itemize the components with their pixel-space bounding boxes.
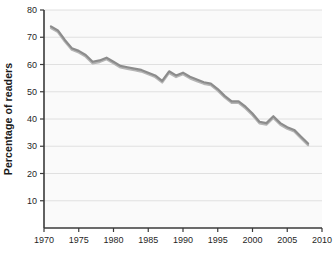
y-axis-title: Percentage of readers (2, 63, 14, 175)
line-chart: 1020304050607080 19701975198019851990199… (0, 0, 333, 258)
y-axis-tick-label: 40 (27, 114, 37, 124)
x-axis-tick-label: 2010 (312, 235, 332, 245)
x-axis-tick-label: 1995 (208, 235, 228, 245)
y-axis-tick-label: 50 (27, 87, 37, 97)
y-axis-tick-label: 30 (27, 141, 37, 151)
x-axis-tick-label: 1975 (69, 235, 89, 245)
chart-container: 1020304050607080 19701975198019851990199… (0, 0, 333, 258)
x-axis-tick-label: 1970 (34, 235, 54, 245)
y-axis-tick-label: 60 (27, 60, 37, 70)
y-axis-tick-label: 20 (27, 169, 37, 179)
y-axis-tick-label: 10 (27, 196, 37, 206)
x-axis-tick-label: 2000 (242, 235, 262, 245)
y-axis-ticks-group: 1020304050607080 (27, 5, 44, 206)
x-axis-tick-label: 1990 (173, 235, 193, 245)
x-axis-tick-label: 1980 (103, 235, 123, 245)
x-axis-ticks-group: 197019751980198519901995200020052010 (34, 228, 332, 245)
x-axis-tick-label: 1985 (138, 235, 158, 245)
x-axis-tick-label: 2005 (277, 235, 297, 245)
y-axis-tick-label: 80 (27, 5, 37, 15)
y-axis-tick-label: 70 (27, 32, 37, 42)
